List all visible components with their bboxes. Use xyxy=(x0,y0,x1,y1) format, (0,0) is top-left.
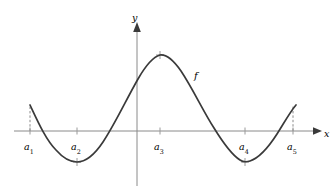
point-label-a5: a5 xyxy=(287,135,297,156)
point-label-a2: a2 xyxy=(71,135,81,156)
point-label-a3: a3 xyxy=(154,135,164,156)
function-label-f: f xyxy=(194,64,198,83)
y-axis-label: y xyxy=(132,6,137,25)
x-axis-arrowhead xyxy=(313,127,322,135)
point-label-a4: a4 xyxy=(239,135,249,156)
point-label-a5-subscript: 5 xyxy=(293,148,297,156)
point-label-a2-subscript: 2 xyxy=(77,148,81,156)
point-label-a4-subscript: 4 xyxy=(245,148,249,156)
graph-canvas xyxy=(0,0,332,195)
x-axis-label: x xyxy=(324,122,329,141)
function-graph-figure: y x f a1 a2 a3 a4 a5 xyxy=(0,0,332,195)
point-label-a1: a1 xyxy=(24,135,34,156)
point-label-a3-subscript: 3 xyxy=(160,148,164,156)
point-label-a1-subscript: 1 xyxy=(30,148,34,156)
